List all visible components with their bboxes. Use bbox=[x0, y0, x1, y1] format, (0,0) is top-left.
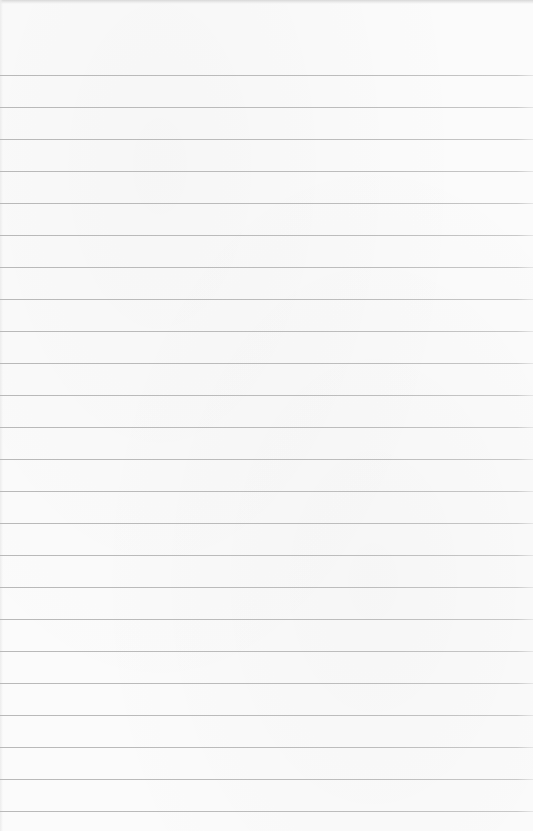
ruled-line bbox=[0, 203, 533, 204]
ruled-line bbox=[0, 395, 533, 396]
ruled-line bbox=[0, 75, 533, 76]
paper-top-edge bbox=[0, 0, 533, 4]
ruled-line bbox=[0, 171, 533, 172]
ruled-line bbox=[0, 587, 533, 588]
ruled-line bbox=[0, 779, 533, 780]
ruled-line bbox=[0, 651, 533, 652]
ruled-paper bbox=[0, 0, 533, 831]
ruled-line bbox=[0, 715, 533, 716]
ruled-line bbox=[0, 267, 533, 268]
ruled-line bbox=[0, 747, 533, 748]
ruled-line bbox=[0, 459, 533, 460]
ruled-line bbox=[0, 523, 533, 524]
ruled-line bbox=[0, 427, 533, 428]
paper-left-edge bbox=[0, 0, 3, 831]
ruled-line bbox=[0, 299, 533, 300]
ruled-line bbox=[0, 811, 533, 812]
ruled-line bbox=[0, 363, 533, 364]
ruled-line bbox=[0, 139, 533, 140]
ruled-line bbox=[0, 619, 533, 620]
ruled-line bbox=[0, 555, 533, 556]
ruled-line bbox=[0, 107, 533, 108]
ruled-line bbox=[0, 235, 533, 236]
ruled-line bbox=[0, 491, 533, 492]
ruled-line bbox=[0, 683, 533, 684]
ruled-line bbox=[0, 331, 533, 332]
